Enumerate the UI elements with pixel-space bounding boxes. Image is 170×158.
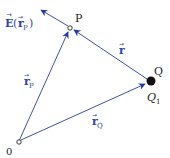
svg-text:P: P bbox=[23, 24, 28, 32]
label-r: r → bbox=[119, 40, 125, 57]
svg-text:→: → bbox=[18, 13, 23, 20]
label-q: Q bbox=[154, 65, 163, 78]
svg-text:→: → bbox=[24, 71, 29, 78]
label-q1: Q1 bbox=[147, 91, 161, 106]
svg-text:→: → bbox=[6, 11, 12, 19]
svg-text:): ) bbox=[29, 17, 33, 30]
svg-text:(: ( bbox=[13, 17, 17, 30]
label-r-q: r → Q bbox=[92, 111, 103, 130]
point-origin bbox=[17, 140, 21, 144]
vector-e-field bbox=[41, 10, 68, 26]
label-r-p: r → P bbox=[24, 71, 34, 90]
vector-r bbox=[74, 30, 147, 79]
point-p bbox=[68, 26, 72, 30]
svg-text:P: P bbox=[29, 82, 34, 90]
label-e-field: E → ( r → P ) bbox=[5, 11, 33, 32]
label-origin: 0 bbox=[6, 146, 12, 157]
svg-text:→: → bbox=[119, 40, 124, 47]
svg-text:Q: Q bbox=[97, 122, 103, 130]
svg-text:→: → bbox=[92, 111, 97, 118]
vector-r-q bbox=[21, 84, 145, 140]
electric-field-vector-diagram: P Q Q1 0 E → ( r → P ) r → r → P r → Q bbox=[0, 0, 170, 158]
label-p: P bbox=[75, 12, 83, 25]
